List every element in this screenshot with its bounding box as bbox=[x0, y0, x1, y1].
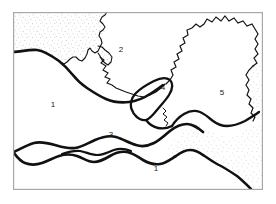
label-region-2: 2 bbox=[119, 45, 124, 54]
label-region-5: 5 bbox=[220, 88, 225, 97]
label-region-1-bottom: 1 bbox=[154, 164, 159, 173]
label-region-4: 4 bbox=[161, 83, 166, 92]
geological-map-figure: 2 1 4 5 3 1 bbox=[0, 0, 276, 204]
map-canvas: 2 1 4 5 3 1 bbox=[0, 0, 276, 204]
label-region-3: 3 bbox=[109, 130, 114, 139]
label-region-1-left: 1 bbox=[51, 100, 56, 109]
